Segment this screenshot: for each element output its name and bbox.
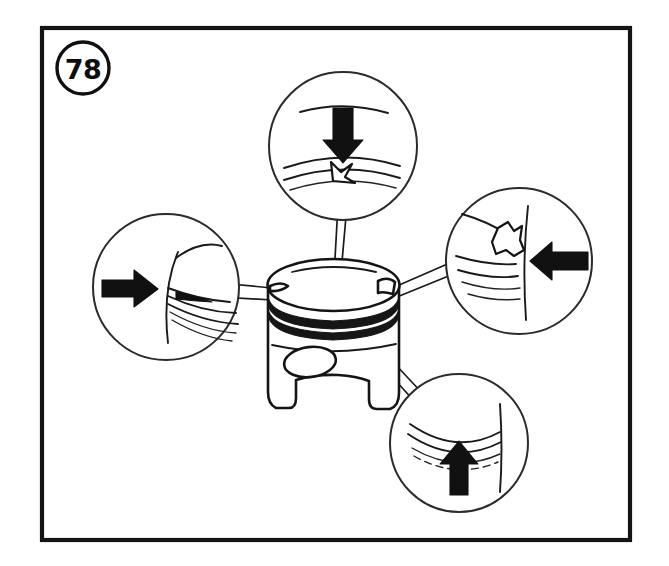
figure-number-text: 78 [65,54,102,85]
figure-number-badge: 78 [57,42,109,94]
crown-notch-right [378,279,395,294]
callout-top[interactable] [269,72,417,220]
callout-right[interactable] [446,188,592,334]
callout-left[interactable] [93,214,239,360]
piston-inspection-diagram: 78 [0,0,669,566]
callout-bottom[interactable] [390,374,528,512]
figure-illustration: 78 [0,0,669,566]
